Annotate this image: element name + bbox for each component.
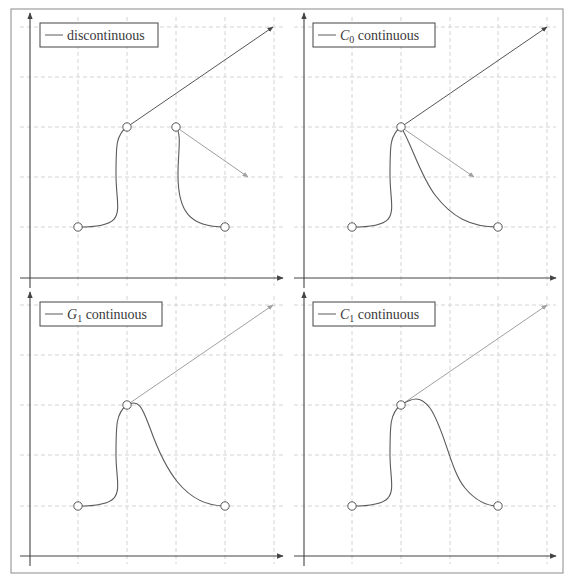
tangent-arrow [176,127,248,177]
grid [20,296,283,564]
control-point [397,123,405,131]
control-point [494,502,502,510]
control-point [74,223,82,231]
control-point [221,502,229,510]
control-point [494,223,502,231]
tangent-arrow [401,127,474,177]
panel-discontinuous: discontinuous [20,13,283,288]
grid [20,17,283,286]
control-point [123,401,131,409]
grid [294,296,556,564]
panel-c1: C1 continuous [294,292,556,566]
control-point [397,401,405,409]
control-point [172,123,180,131]
control-point [348,502,356,510]
figure-frame [11,9,563,573]
legend: discontinuous [40,23,158,47]
legend: C1 continuous [313,302,435,326]
control-point [74,502,82,510]
continuity-figure: discontinuousC0 continuousG1 continuousC… [0,0,572,578]
legend: G1 continuous [40,302,162,326]
control-point [221,223,229,231]
grid [294,17,556,286]
control-point [123,123,131,131]
legend: C0 continuous [313,23,435,47]
legend-label: discontinuous [67,28,145,43]
control-point [348,223,356,231]
panel-c0: C0 continuous [294,13,556,288]
panel-g1: G1 continuous [20,292,283,566]
